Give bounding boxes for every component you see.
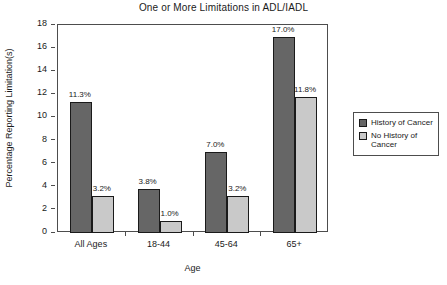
bar xyxy=(295,97,317,233)
bar xyxy=(70,102,92,233)
y-tick-mark xyxy=(51,162,55,163)
bar-value-label: 1.0% xyxy=(152,209,188,218)
bar-value-label: 7.0% xyxy=(197,140,233,149)
plot-area xyxy=(57,24,328,232)
bar-value-label: 3.2% xyxy=(84,184,120,193)
y-tick-label: 8 xyxy=(22,134,47,144)
y-tick-label: 12 xyxy=(22,87,47,97)
bar xyxy=(160,221,182,233)
y-tick-mark xyxy=(51,70,55,71)
y-tick-mark xyxy=(51,185,55,186)
bar-value-label: 3.8% xyxy=(130,177,166,186)
y-tick-mark xyxy=(51,24,55,25)
y-tick-label: 0 xyxy=(22,226,47,236)
x-tick-mark xyxy=(260,232,261,236)
y-tick-label: 4 xyxy=(22,180,47,190)
bar-value-label: 3.2% xyxy=(219,184,255,193)
y-tick-label: 18 xyxy=(22,18,47,28)
y-tick-label: 6 xyxy=(22,157,47,167)
bar-chart: One or More Limitations in ADL/IADL Perc… xyxy=(0,0,447,285)
x-axis-title: Age xyxy=(57,263,328,273)
y-tick-label: 10 xyxy=(22,110,47,120)
x-axis-label: 18-44 xyxy=(125,239,193,249)
y-tick-mark xyxy=(51,232,55,233)
chart-title: One or More Limitations in ADL/IADL xyxy=(0,2,447,13)
y-tick-mark xyxy=(51,93,55,94)
legend-item-label: No History of Cancer xyxy=(371,131,434,150)
y-tick-mark xyxy=(51,116,55,117)
bar-value-label: 11.3% xyxy=(62,90,98,99)
y-tick-label: 16 xyxy=(22,41,47,51)
x-tick-mark xyxy=(125,232,126,236)
x-tick-mark xyxy=(193,232,194,236)
legend-item-label: History of Cancer xyxy=(371,118,433,128)
legend-swatch-icon xyxy=(359,132,367,140)
y-tick-mark xyxy=(51,139,55,140)
legend-swatch-icon xyxy=(359,119,367,127)
x-axis-label: 45-64 xyxy=(193,239,261,249)
chart-legend: History of CancerNo History of Cancer xyxy=(353,112,439,156)
legend-item: No History of Cancer xyxy=(359,131,434,150)
bar xyxy=(227,196,249,233)
bar xyxy=(273,37,295,233)
bar-value-label: 17.0% xyxy=(265,25,301,34)
y-tick-label: 2 xyxy=(22,203,47,213)
bar-value-label: 11.8% xyxy=(287,85,323,94)
y-tick-mark xyxy=(51,208,55,209)
y-tick-label: 14 xyxy=(22,64,47,74)
y-axis-title: Percentage Reporting Limitation(s) xyxy=(4,0,14,243)
legend-item: History of Cancer xyxy=(359,118,434,128)
y-tick-mark xyxy=(51,47,55,48)
bar xyxy=(92,196,114,233)
x-axis-label: 65+ xyxy=(260,239,328,249)
x-axis-label: All Ages xyxy=(57,239,125,249)
